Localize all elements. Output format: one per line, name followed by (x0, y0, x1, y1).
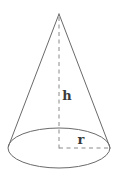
cone-right-slant-line (59, 14, 110, 147)
cone-left-slant-line (8, 14, 59, 147)
radius-label: r (78, 132, 85, 147)
height-label: h (62, 88, 72, 103)
cone-figure: h r (0, 0, 117, 176)
cone-diagram-canvas: h r (0, 0, 117, 176)
